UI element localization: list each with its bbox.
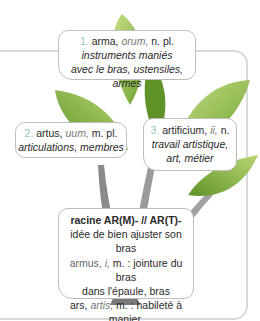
definition-box-artus: 2. artus, uum, m. pl. articulations, mem… (15, 122, 127, 158)
root-title: racine AR(M)- // AR(T)- (59, 213, 193, 227)
definition-box-arma: 1. arma, orum, n. pl. instruments maniés… (58, 30, 196, 80)
number-label: 2. (25, 127, 34, 139)
number-label: 1. (80, 35, 89, 47)
number-label: 3. (151, 124, 160, 136)
definition-box-artificium: 3. artificium, ii, n. travail artistique… (143, 118, 237, 171)
root-box: racine AR(M)- // AR(T)- idée de bien aju… (58, 208, 194, 299)
